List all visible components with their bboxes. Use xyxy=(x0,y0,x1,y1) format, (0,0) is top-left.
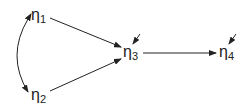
node-subscript: 3 xyxy=(132,50,138,62)
node-eta2: η2 xyxy=(31,87,46,105)
node-symbol: η xyxy=(31,86,40,103)
node-symbol: η xyxy=(123,43,132,60)
edge-eta2-eta3 xyxy=(50,59,121,91)
node-eta1: η1 xyxy=(31,7,46,25)
node-symbol: η xyxy=(219,43,228,60)
node-subscript: 4 xyxy=(228,50,234,62)
disturbance-arrow-eta4 xyxy=(229,34,236,44)
edge-eta1-eta3 xyxy=(50,18,121,47)
node-eta4: η4 xyxy=(219,44,234,62)
covariance-eta1-eta2 xyxy=(17,19,28,92)
disturbance-arrow-eta3 xyxy=(133,34,140,44)
node-subscript: 1 xyxy=(40,13,46,25)
node-symbol: η xyxy=(31,6,40,23)
node-eta3: η3 xyxy=(123,44,138,62)
node-subscript: 2 xyxy=(40,93,46,105)
